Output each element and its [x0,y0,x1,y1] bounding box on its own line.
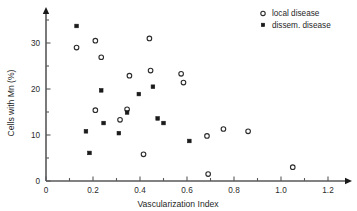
x-axis-title: Vascularization Index [137,199,219,209]
axes-group [43,7,352,184]
data-point-dissem-disease [156,117,160,121]
data-point-dissem-disease [117,131,121,135]
data-point-local-disease [93,38,98,43]
y-tick-label: 10 [31,131,41,140]
x-axis-arrow-icon [345,178,352,184]
y-tick-label: 0 [35,177,40,186]
y-axis-title: Cells with Mn (%) [6,69,16,136]
data-point-dissem-disease [75,24,79,28]
y-axis-arrow-icon [43,7,49,14]
data-point-local-disease [206,172,211,177]
tick-labels-group: 00.20.40.60.81.01.20102030 [31,39,334,195]
legend-label-text: dissem. disease [272,21,331,30]
data-point-local-disease [246,129,251,134]
legend-marker-dissem-disease [261,23,264,26]
x-tick-label: 1.2 [322,186,334,195]
data-point-local-disease [179,72,184,77]
data-point-local-disease [74,45,79,50]
data-point-local-disease [205,134,210,139]
x-tick-label: 0.6 [181,186,193,195]
data-point-dissem-disease [125,111,129,115]
legend-marker-local-disease [261,11,265,15]
data-point-local-disease [148,68,153,73]
data-point-dissem-disease [137,92,141,96]
data-point-local-disease [181,80,186,85]
data-points-group [74,24,295,176]
data-point-local-disease [93,108,98,113]
data-point-local-disease [99,55,104,60]
data-point-local-disease [118,118,123,123]
data-point-dissem-disease [151,85,155,89]
data-point-dissem-disease [188,139,192,143]
ticks-group [46,20,328,181]
data-point-local-disease [290,165,295,170]
y-tick-label: 20 [31,85,41,94]
x-tick-label: 0.8 [228,186,240,195]
data-point-dissem-disease [162,121,166,125]
data-point-dissem-disease [84,130,88,134]
x-tick-label: 0.2 [87,186,99,195]
data-point-dissem-disease [88,151,92,155]
y-tick-label: 30 [31,39,41,48]
data-point-local-disease [147,36,152,41]
x-tick-label: 0.4 [134,186,146,195]
legend-label-text: local disease [272,9,320,18]
data-point-dissem-disease [99,89,103,93]
data-point-dissem-disease [102,121,106,125]
x-tick-label: 1.0 [275,186,287,195]
scatter-plot-figure: 00.20.40.60.81.01.20102030 local disease… [0,0,357,211]
data-point-local-disease [221,127,226,132]
x-tick-label: 0 [44,186,49,195]
data-point-local-disease [127,73,132,78]
data-point-local-disease [141,152,146,157]
plot-canvas: 00.20.40.60.81.01.20102030 local disease… [0,0,357,211]
legend-group: local diseasedissem. disease [261,9,331,30]
